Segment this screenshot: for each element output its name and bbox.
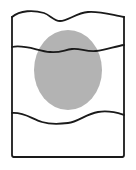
diagram-canvas xyxy=(0,0,136,170)
figure-root: Schematic cross-section with wavy bounda… xyxy=(0,0,136,170)
central-ellipse xyxy=(34,30,102,110)
